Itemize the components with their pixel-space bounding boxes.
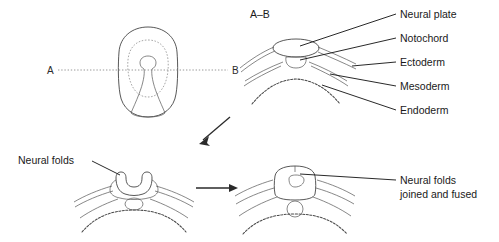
section-marker-b: B [232, 65, 239, 76]
neural-tube-lumen [289, 175, 304, 187]
endoderm-layer [252, 79, 340, 104]
label-neural-folds: Neural folds [18, 154, 74, 166]
fold-sheet-right-1 [156, 186, 194, 202]
fold-sheet-left-3 [80, 199, 118, 218]
fused-sheet-left-1 [235, 180, 273, 196]
fused-sheet-right-1 [317, 180, 355, 196]
neurulation-diagram: A B A–B Neural plate Notochord Ectoderm [0, 0, 499, 242]
label-mesoderm: Mesoderm [400, 80, 450, 92]
mesoderm-right [309, 62, 347, 81]
panel-fused-tube: Neural folds joined and fused [235, 166, 477, 234]
ectoderm-left-lower [241, 51, 275, 72]
leader-neural-folds [92, 161, 120, 175]
panel-neural-folds: Neural folds [18, 154, 194, 232]
label-neural-plate: Neural plate [400, 8, 457, 20]
fold-sheet-right-3 [150, 199, 188, 218]
fused-sheet-left-3 [239, 197, 277, 216]
leader-endoderm [322, 85, 396, 110]
leader-fused-label [300, 174, 396, 180]
fold-sheet-right-2 [155, 191, 193, 207]
arrow-down-left [199, 117, 230, 146]
section-marker-a: A [47, 65, 54, 76]
embryo-inner-dotted-oval [128, 40, 169, 97]
arrow-right [196, 184, 238, 192]
fused-sheet-right-2 [316, 188, 354, 204]
label-fused-line1: Neural folds [400, 174, 456, 186]
fold-sheet-left-1 [74, 186, 112, 202]
panel-dorsal-embryo: A B [47, 27, 239, 117]
label-notochord: Notochord [400, 32, 449, 44]
mesoderm-left-2 [244, 66, 281, 86]
leader-ectoderm [352, 62, 396, 66]
fused-sheet-left-2 [236, 188, 274, 204]
neural-groove-shape [116, 172, 152, 196]
fused-sheet-right-3 [313, 197, 351, 216]
label-fused-line2: joined and fused [399, 188, 477, 200]
section-ab-heading: A–B [250, 8, 270, 20]
endoderm-folds [82, 210, 186, 232]
panel-section-ab: A–B Neural plate Notochord Ectoderm Meso… [240, 8, 457, 116]
notochord-shape [286, 57, 306, 68]
label-endoderm: Endoderm [400, 104, 449, 116]
ectoderm-left-upper [240, 47, 274, 68]
ectoderm-right-upper [318, 47, 356, 64]
embryo-outline [118, 27, 177, 117]
leader-mesoderm [330, 74, 396, 86]
label-ectoderm: Ectoderm [400, 56, 445, 68]
embryo-neural-groove [131, 56, 165, 117]
fold-sheet-left-2 [75, 191, 113, 207]
